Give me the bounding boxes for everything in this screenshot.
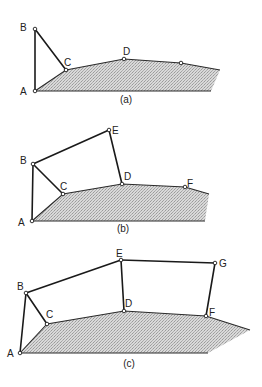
joint-label-d: D	[124, 171, 131, 182]
joint-e-pivot-icon	[107, 128, 111, 132]
joint-label-e: E	[116, 248, 123, 259]
joint-label-a: A	[18, 217, 25, 228]
link-bar	[20, 293, 26, 353]
joint-b-pivot-icon	[24, 291, 28, 295]
link-bar	[26, 293, 47, 324]
joint-label-c: C	[46, 309, 53, 320]
panel-b: ABCDEF(b)	[18, 125, 209, 234]
link-bar	[32, 164, 33, 221]
panel-caption: (c)	[123, 358, 135, 369]
joint-label-d: D	[125, 298, 132, 309]
link-bar	[121, 260, 215, 263]
joint-label-a: A	[20, 86, 27, 97]
joint-c-pivot-icon	[45, 322, 49, 326]
panel-c: ABCDEFG(c)	[7, 248, 250, 369]
link-bar	[109, 130, 122, 184]
joint-label-b: B	[17, 281, 24, 292]
panel-caption: (a)	[120, 94, 132, 105]
joint-label-e: E	[112, 125, 119, 136]
link-bar	[33, 130, 109, 164]
joint-label-f: F	[209, 307, 215, 318]
linkage-diagram: ABCD(a) ABCDEF(b) ABCDEFG(c)	[0, 0, 262, 387]
joint-g-pivot-icon	[213, 261, 217, 265]
link-bar	[26, 260, 121, 293]
joint-label-a: A	[7, 348, 14, 359]
joint-d-pivot-icon	[120, 182, 124, 186]
ground-region	[20, 311, 250, 353]
joint-label-g: G	[219, 258, 227, 269]
link-bar	[35, 29, 66, 70]
panel-a: ABCD(a)	[20, 22, 220, 105]
link-bar	[121, 260, 124, 311]
joint-label-b: B	[20, 155, 27, 166]
joint-f-pivot-icon	[204, 314, 208, 318]
joint-label-d: D	[123, 46, 130, 57]
joint-a-pivot-icon	[30, 219, 34, 223]
joint-label-b: B	[20, 22, 27, 33]
joint-label-c: C	[64, 57, 71, 68]
joint-b-pivot-icon	[33, 27, 37, 31]
joint-c-pivot-icon	[64, 68, 68, 72]
joint-label-f: F	[187, 178, 193, 189]
joint-p-pivot-icon	[179, 61, 183, 65]
link-bar	[33, 164, 63, 194]
joint-label-c: C	[60, 181, 67, 192]
joint-d-pivot-icon	[122, 57, 126, 61]
panel-caption: (b)	[117, 223, 129, 234]
joint-a-pivot-icon	[18, 351, 22, 355]
joint-c-pivot-icon	[61, 192, 65, 196]
ground-region	[35, 59, 220, 91]
joint-a-pivot-icon	[33, 89, 37, 93]
joint-b-pivot-icon	[31, 162, 35, 166]
joint-d-pivot-icon	[122, 309, 126, 313]
